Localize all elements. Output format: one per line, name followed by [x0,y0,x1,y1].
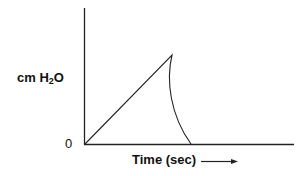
x-axis-label: Time (sec) [132,152,196,167]
time-arrow-head-icon [231,159,238,164]
pressure-curve [85,55,191,144]
y-axis-label: cm H2O [17,70,64,86]
y-tick-zero: 0 [65,136,72,151]
chart-canvas [0,0,308,176]
